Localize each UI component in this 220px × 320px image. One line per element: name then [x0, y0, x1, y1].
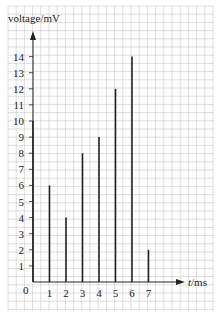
y-tick-label: 3: [19, 228, 25, 240]
y-tick-label: 11: [13, 99, 24, 111]
y-tick-label: 13: [13, 67, 25, 79]
x-tick-label: 2: [63, 287, 69, 299]
voltage-time-chart: 12345678910111213141234567 voltage/mV t/…: [0, 0, 220, 320]
axes: [30, 31, 185, 285]
y-tick-label: 6: [19, 179, 25, 191]
y-tick-label: 14: [13, 51, 25, 63]
y-tick-label: 1: [19, 260, 25, 272]
origin-label: 0: [23, 284, 29, 296]
y-tick-label: 7: [19, 163, 25, 175]
x-axis-label-unit: /ms: [191, 276, 207, 288]
x-tick-label: 4: [96, 287, 102, 299]
y-tick-label: 12: [13, 83, 24, 95]
y-axis-label: voltage/mV: [8, 12, 60, 24]
y-tick-label: 4: [19, 212, 25, 224]
x-tick-label: 3: [80, 287, 86, 299]
grid: [8, 6, 214, 311]
y-tick-label: 8: [19, 147, 25, 159]
y-tick-label: 5: [19, 196, 25, 208]
y-tick-label: 2: [19, 244, 25, 256]
y-tick-label: 10: [13, 115, 25, 127]
x-tick-label: 1: [47, 287, 53, 299]
x-tick-label: 5: [113, 287, 119, 299]
x-axis-label: t/ms: [188, 276, 207, 288]
y-tick-label: 9: [19, 131, 25, 143]
x-tick-label: 6: [129, 287, 135, 299]
x-tick-label: 7: [146, 287, 152, 299]
